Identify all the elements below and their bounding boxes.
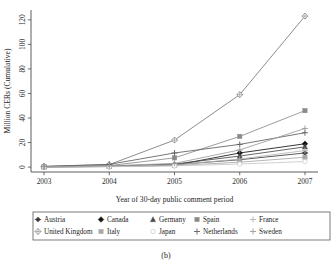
square-icon: [99, 229, 103, 233]
square-icon: [238, 134, 242, 138]
legend-item-label: France: [259, 216, 279, 224]
legend-item-label: Spain: [203, 216, 220, 224]
legend-item-label: Sweden: [259, 228, 282, 236]
data-point-marker-7-4: [303, 159, 307, 163]
legend-item-label: Germany: [159, 216, 186, 224]
x-axis-title: Year of 30-day public comment period: [116, 195, 234, 204]
legend-item-label: Japan: [159, 228, 176, 236]
square-icon: [172, 156, 176, 160]
data-point-marker-8-2: [172, 150, 178, 156]
x-tick-label: 2005: [167, 177, 182, 186]
data-point-marker-legend-1: [98, 217, 104, 223]
legend-item-netherlands[interactable]: Netherlands: [194, 228, 238, 236]
data-point-marker-legend-2: [150, 217, 155, 222]
legend-item-label: Austria: [44, 216, 66, 224]
legend-item-spain[interactable]: Spain: [195, 216, 220, 224]
series-united-kingdom: [41, 13, 308, 169]
diamond-icon: [98, 217, 104, 223]
square-icon: [195, 217, 199, 221]
data-point-marker-6-4: [303, 155, 307, 159]
data-point-marker-8-3: [237, 141, 243, 147]
y-tick-label: 60: [18, 89, 27, 97]
y-tick-label: 0: [18, 165, 27, 169]
legend-item-label: United Kingdom: [44, 228, 93, 236]
x-tick-label: 2003: [37, 177, 52, 186]
square-icon: [303, 108, 307, 112]
data-point-marker-legend-7: [151, 229, 155, 233]
legend-item-canada[interactable]: Canada: [98, 216, 129, 224]
legend-item-austria[interactable]: Austria: [35, 216, 66, 224]
legend-item-label: Canada: [107, 216, 129, 224]
legend-item-japan[interactable]: Japan: [151, 228, 176, 236]
data-point-marker-3-4: [303, 108, 307, 112]
line-chart: 02040608010012020032004200520062007Milli…: [0, 0, 333, 271]
data-point-marker-3-3: [238, 134, 242, 138]
y-tick-label: 80: [18, 65, 27, 73]
y-tick-label: 20: [18, 139, 27, 147]
circle-icon: [151, 229, 155, 233]
y-tick-label: 40: [18, 114, 27, 122]
circle-icon: [238, 162, 242, 166]
legend-item-sweden[interactable]: Sweden: [250, 228, 282, 236]
legend-item-united-kingdom[interactable]: United Kingdom: [35, 228, 93, 236]
data-point-marker-legend-9: [250, 229, 256, 235]
x-tick-label: 2007: [298, 177, 313, 186]
data-point-marker-legend-5: [35, 229, 41, 235]
legend-item-label: Italy: [107, 228, 121, 236]
y-tick-label: 120: [18, 14, 27, 25]
figure-caption: (b): [161, 251, 171, 260]
data-point-marker-legend-3: [195, 217, 199, 221]
y-axis-title: Million CERs (Cumulative): [3, 48, 12, 133]
y-tick-label: 100: [18, 39, 27, 50]
triangle-icon: [150, 217, 155, 222]
data-point-marker-5-2: [172, 137, 178, 143]
data-point-marker-legend-8: [194, 229, 200, 235]
square-icon: [303, 155, 307, 159]
data-point-marker-legend-4: [250, 217, 256, 223]
legend-item-germany[interactable]: Germany: [150, 216, 186, 224]
series-line-path: [44, 16, 305, 166]
data-point-marker-7-3: [238, 162, 242, 166]
figure-panel-b: 02040608010012020032004200520062007Milli…: [0, 0, 333, 271]
circle-icon: [303, 159, 307, 163]
legend-item-france[interactable]: France: [250, 216, 279, 224]
data-point-marker-3-2: [172, 156, 176, 160]
data-point-marker-9-4: [302, 125, 308, 131]
x-tick-label: 2004: [102, 177, 117, 186]
legend-item-label: Netherlands: [203, 228, 238, 236]
data-point-marker-legend-6: [99, 229, 103, 233]
legend-item-italy[interactable]: Italy: [99, 228, 121, 236]
data-point-marker-legend-0: [35, 217, 41, 222]
x-tick-label: 2006: [232, 177, 247, 186]
